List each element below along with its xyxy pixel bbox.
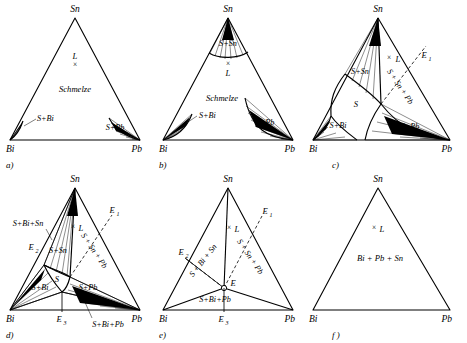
panel-a-leader-solid-bi	[24, 119, 36, 126]
panel-e-corner-pb: Pb	[283, 314, 295, 324]
panel-a-label-solid-pb: S+Pb	[106, 123, 125, 132]
panel-d-E2-subscript: 2	[36, 248, 39, 254]
panel-e-corner-bi: Bi	[159, 314, 168, 324]
panel-b-bi-wedge	[163, 117, 190, 140]
panel-d-label-solid-sn-pb: S + Sn + Pb	[79, 231, 109, 270]
ternary-phase-diagram-figure: Sn Bi Pb L × Schmelze S+Bi S+Pb a)	[0, 0, 467, 343]
panel-a-corner-sn: Sn	[70, 4, 80, 14]
panel-c-E1-label: E	[420, 50, 427, 60]
panel-e-point-E3: E 3	[217, 314, 228, 326]
panel-b: Sn Bi Pb S+Sn × L Schmelze S+Bi S+Pb b)	[159, 4, 295, 170]
panel-d-point-E3: E 3	[55, 314, 66, 326]
panel-c-E1-subscript: 1	[429, 56, 432, 62]
panel-d-E3-label: E	[55, 314, 62, 324]
panel-d-point-E1: E 1	[108, 205, 119, 217]
panel-b-label-melt: Schmelze	[206, 93, 238, 103]
panel-e-marker-L: ×	[227, 223, 232, 232]
panel-b-label-L: L	[225, 68, 231, 78]
panel-a: Sn Bi Pb L × Schmelze S+Bi S+Pb a)	[6, 4, 142, 170]
panel-c-corner-sn: Sn	[373, 4, 383, 14]
panel-b-corner-pb: Pb	[283, 144, 295, 154]
panel-d-label-solid-bi: S+Bi	[32, 283, 50, 292]
panel-c-point-E1: E 1	[420, 50, 431, 62]
panel-b-caption: b)	[159, 160, 167, 170]
panel-a-caption: a)	[6, 160, 14, 170]
panel-e-E1-subscript: 1	[270, 212, 273, 218]
panel-f-label-solid-all: Bi + Pb + Sn	[357, 253, 403, 263]
panel-c-s-right-boundary	[365, 104, 381, 140]
panel-b-corner-bi: Bi	[159, 144, 168, 154]
panel-d-caption: d)	[6, 330, 14, 340]
panel-d: Sn Bi Pb × L S+Bi+Sn S+Sn S+Bi S+Pb S S …	[6, 174, 142, 340]
panel-e-label-solid-sn-pb: S + Sn + Pb	[235, 237, 265, 276]
panel-a-marker-L: ×	[73, 60, 78, 69]
panel-b-solid-bi-tielines	[163, 114, 192, 140]
panel-e-point-E2: E 2	[177, 247, 188, 259]
panel-f-caption: f )	[332, 330, 340, 340]
panel-b-corner-sn: Sn	[223, 4, 233, 14]
panel-f-corner-sn: Sn	[373, 174, 383, 184]
panel-e-label-L: L	[234, 224, 240, 234]
panel-e-label-solid-bi-sn: S + Bi + Sn	[188, 242, 219, 278]
panel-d-corner-pb: Pb	[130, 314, 142, 324]
panel-d-label-solid-bi-pb: S+Bi+Pb	[92, 320, 124, 329]
panel-a-corner-pb: Pb	[130, 144, 142, 154]
panel-b-marker-L: ×	[226, 59, 231, 68]
panel-d-label-solid-bi-sn: S+Bi+Sn	[13, 219, 44, 228]
panel-c-caption: c)	[332, 160, 339, 170]
panel-c-label-solid-bi: S+Bi	[330, 121, 348, 130]
panel-c-marker-L: ×	[387, 53, 392, 62]
panel-d-E3-subscript: 3	[63, 320, 67, 326]
panel-b-label-solid-bi: S+Bi	[199, 111, 217, 120]
panel-d-corner-bi: Bi	[6, 314, 15, 324]
panel-d-leader-bi-sn	[46, 229, 52, 240]
panel-d-s-right	[62, 277, 70, 292]
panel-e: Sn Bi Pb × L S + Bi + Sn S + Sn + Pb S+B…	[159, 174, 295, 340]
panel-a-label-solid-bi: S+Bi	[37, 114, 55, 123]
panel-e-caption: e)	[159, 330, 166, 340]
panel-b-label-solid-pb: S+Pb	[256, 118, 275, 127]
panel-a-label-melt: Schmelze	[59, 84, 91, 94]
panel-e-E2-subscript: 2	[186, 253, 189, 259]
panel-c-corner-pb: Pb	[440, 144, 452, 154]
panel-c-label-solid-sn: S+Sn	[351, 67, 369, 76]
panel-e-E3-label: E	[217, 314, 224, 324]
panel-d-label-L: L	[78, 223, 84, 233]
panel-f-corner-pb: Pb	[440, 314, 452, 324]
panel-e-label-solid-bi-pb: S+Bi+Pb	[199, 295, 231, 304]
panel-a-corner-bi: Bi	[6, 144, 15, 154]
panel-d-label-solid: S	[55, 274, 60, 284]
panel-d-marker-L: ×	[71, 222, 76, 231]
panel-d-label-solid-sn: S+Sn	[49, 246, 67, 255]
panel-f-triangle	[313, 188, 450, 310]
panel-d-corner-sn: Sn	[70, 174, 80, 184]
panel-f-label-L: L	[379, 224, 385, 234]
panel-f-marker-L: ×	[372, 223, 377, 232]
panel-e-E2-label: E	[177, 247, 184, 257]
panel-e-point-E1: E 1	[261, 206, 272, 218]
panel-d-label-solid-pb: S+Pb	[79, 283, 98, 292]
panel-e-corner-sn: Sn	[223, 174, 233, 184]
panel-c-label-solid: S	[354, 99, 359, 109]
panel-c-s-left-boundary	[331, 74, 345, 116]
panel-b-sn-wedge	[222, 18, 234, 40]
panel-c-corner-bi: Bi	[309, 144, 318, 154]
panel-f: Sn Bi Pb × L Bi + Pb + Sn f )	[309, 174, 452, 340]
panel-c-label-solid-pb: S+Pb	[401, 122, 420, 131]
panel-c-solid-sn-boundary	[345, 74, 381, 104]
panel-e-sn-to-E	[224, 188, 228, 288]
panel-a-triangle	[10, 18, 140, 140]
panel-e-E-center-label: E	[229, 278, 236, 288]
panel-d-E1-label: E	[108, 205, 115, 215]
panel-c-label-L: L	[395, 54, 401, 64]
panel-e-E1-label: E	[261, 206, 268, 216]
panel-b-label-solid-sn: S+Sn	[219, 39, 237, 48]
panel-e-E3-subscript: 3	[225, 320, 229, 326]
panel-d-point-E2: E 2	[27, 242, 38, 254]
panel-f-corner-bi: Bi	[309, 314, 318, 324]
panel-c: Sn Bi Pb × L S+Sn S+Bi S+Pb S S + Sn + P…	[309, 4, 452, 170]
panel-d-E2-label: E	[27, 242, 34, 252]
panel-d-E1-subscript: 1	[117, 211, 120, 217]
